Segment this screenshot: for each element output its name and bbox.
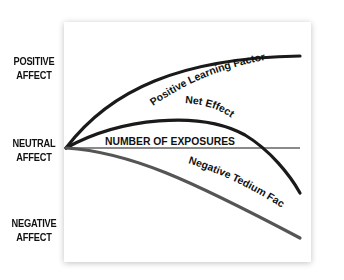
y-label-neutral-line2: AFFECT: [8, 150, 61, 164]
y-label-positive-line1: POSITIVE: [8, 54, 61, 68]
y-label-negative-line2: AFFECT: [8, 230, 61, 244]
y-label-positive-line2: AFFECT: [8, 68, 61, 82]
y-label-negative: NEGATIVE AFFECT: [8, 216, 61, 244]
y-label-positive: POSITIVE AFFECT: [8, 54, 61, 82]
y-label-negative-line1: NEGATIVE: [8, 216, 61, 230]
x-axis-label: NUMBER OF EXPOSURES: [105, 135, 235, 147]
y-label-neutral-line1: NEUTRAL: [8, 136, 61, 150]
y-label-neutral: NEUTRAL AFFECT: [8, 136, 61, 164]
